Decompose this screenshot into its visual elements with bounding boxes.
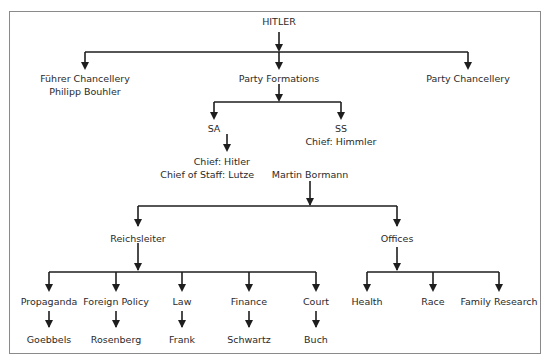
node-reichsleiter: Reichsleiter bbox=[110, 233, 166, 244]
node-martin-bormann: Martin Bormann bbox=[272, 169, 349, 180]
node-law: Law bbox=[173, 296, 192, 307]
node-offices: Offices bbox=[381, 233, 414, 244]
node-foreign-policy: Foreign Policy bbox=[83, 296, 149, 307]
node-court: Court bbox=[303, 296, 329, 307]
node-party-formations: Party Formations bbox=[239, 73, 319, 84]
node-sa: SA bbox=[208, 123, 221, 134]
node-finance: Finance bbox=[231, 296, 267, 307]
node-buch: Buch bbox=[304, 334, 328, 345]
node-ss-chief: Chief: Himmler bbox=[305, 136, 376, 147]
node-health: Health bbox=[351, 296, 382, 307]
node-fuhrer-chancellery-head: Philipp Bouhler bbox=[49, 86, 121, 97]
node-sa-chief-of-staff: Chief of Staff: Lutze bbox=[160, 169, 254, 180]
node-fuhrer-chancellery: Führer Chancellery bbox=[40, 73, 130, 84]
node-schwartz: Schwartz bbox=[227, 334, 270, 345]
node-race: Race bbox=[421, 296, 444, 307]
node-sa-chief: Chief: Hitler bbox=[194, 156, 250, 167]
node-rosenberg: Rosenberg bbox=[91, 334, 141, 345]
node-frank: Frank bbox=[169, 334, 196, 345]
node-ss: SS bbox=[335, 123, 347, 134]
node-hitler: HITLER bbox=[262, 16, 296, 27]
node-party-chancellery: Party Chancellery bbox=[426, 73, 510, 84]
node-goebbels: Goebbels bbox=[27, 334, 72, 345]
org-chart: HITLER Führer Chancellery Philipp Bouhle… bbox=[0, 0, 553, 363]
node-family-research: Family Research bbox=[460, 296, 537, 307]
node-propaganda: Propaganda bbox=[21, 296, 78, 307]
